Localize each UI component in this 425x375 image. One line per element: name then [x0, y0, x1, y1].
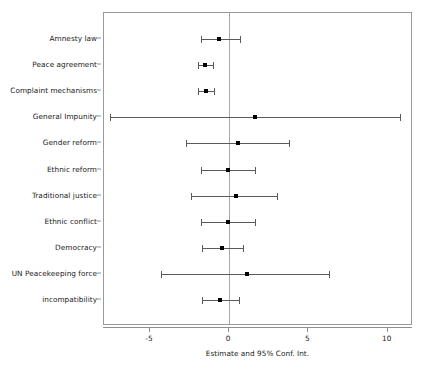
plot-panel — [103, 12, 412, 325]
x-axis-tick-label: 0 — [226, 334, 231, 343]
x-axis-tick — [387, 327, 388, 332]
ci-lower-cap — [201, 167, 202, 174]
x-axis-title: Estimate and 95% Conf. Int. — [103, 349, 412, 358]
ci-upper-cap — [239, 297, 240, 304]
x-axis-tick — [307, 327, 308, 332]
y-axis-label: General Impunity — [33, 112, 97, 121]
y-axis-label: Peace agreement — [32, 60, 97, 69]
ci-upper-cap — [255, 219, 256, 226]
estimate-point — [217, 37, 221, 41]
estimate-point — [220, 246, 224, 250]
estimate-point — [234, 194, 238, 198]
ci-upper-cap — [243, 245, 244, 252]
y-axis-label: Complaint mechanisms — [10, 86, 97, 95]
y-axis-tick — [97, 194, 101, 195]
ci-upper-cap — [289, 140, 290, 147]
y-axis-tick — [97, 298, 101, 299]
estimate-point — [203, 63, 207, 67]
x-axis-tick-label: 5 — [305, 334, 310, 343]
ci-upper-cap — [400, 114, 401, 121]
estimate-point — [218, 298, 222, 302]
estimate-point — [204, 89, 208, 93]
estimate-point — [226, 168, 230, 172]
ci-lower-cap — [186, 140, 187, 147]
ci-upper-cap — [240, 36, 241, 43]
y-axis-tick — [97, 64, 101, 65]
y-axis-tick — [97, 142, 101, 143]
ci-lower-cap — [202, 245, 203, 252]
forest-plot: Amnesty lawPeace agreementComplaint mech… — [0, 0, 425, 375]
estimate-point — [245, 272, 249, 276]
ci-upper-cap — [213, 62, 214, 69]
ci-lower-cap — [110, 114, 111, 121]
y-axis-label: Democracy — [55, 242, 97, 251]
ci-lower-cap — [198, 62, 199, 69]
y-axis-tick — [97, 246, 101, 247]
y-axis-tick — [97, 220, 101, 221]
y-axis-tick — [97, 90, 101, 91]
ci-upper-cap — [214, 88, 215, 95]
y-axis-label: Gender reform — [43, 138, 97, 147]
y-axis-label: incompatibility — [42, 294, 97, 303]
x-axis-tick — [149, 327, 150, 332]
ci-lower-cap — [198, 88, 199, 95]
estimate-point — [226, 220, 230, 224]
x-axis-tick — [228, 327, 229, 332]
ci-upper-cap — [255, 167, 256, 174]
y-axis-label: UN Peacekeeping force — [12, 268, 97, 277]
y-axis-tick — [97, 168, 101, 169]
ci-upper-cap — [277, 193, 278, 200]
y-axis-label: Traditional justice — [32, 190, 97, 199]
x-axis-tick-label: -5 — [145, 334, 152, 343]
ci-lower-cap — [202, 297, 203, 304]
ci-lower-cap — [191, 193, 192, 200]
y-axis-label: Ethnic conflict — [45, 216, 97, 225]
estimate-point — [236, 141, 240, 145]
plot-area — [104, 13, 411, 324]
y-axis-label: Amnesty law — [49, 34, 97, 43]
y-axis-tick — [97, 272, 101, 273]
y-axis-labels: Amnesty lawPeace agreementComplaint mech… — [0, 12, 97, 325]
estimate-point — [253, 115, 257, 119]
x-axis-tick-label: 10 — [382, 334, 391, 343]
y-axis-tick — [97, 38, 101, 39]
ci-lower-cap — [201, 36, 202, 43]
ci-lower-cap — [201, 219, 202, 226]
ci-lower-cap — [161, 271, 162, 278]
y-axis-tick — [97, 116, 101, 117]
ci-upper-cap — [329, 271, 330, 278]
y-axis-label: Ethnic reform — [47, 164, 97, 173]
